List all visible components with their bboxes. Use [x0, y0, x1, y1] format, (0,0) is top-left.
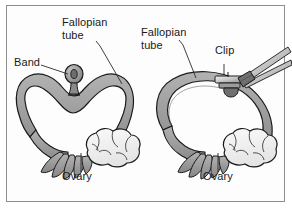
ovary-label-right: Ovary: [203, 170, 233, 183]
ovary-label-left: Ovary: [62, 170, 92, 183]
band-method-panel: Band Fallopian tube Ovary: [0, 0, 146, 214]
clip-method-panel: Fallopian tube Clip Ovary: [146, 0, 292, 214]
clip-label: Clip: [215, 44, 234, 57]
caption-strip: [0, 203, 292, 214]
fallopian-tube-label-left: Fallopian tube: [62, 16, 108, 41]
band-label: Band: [14, 56, 40, 69]
fallopian-tube-label-right: Fallopian tube: [141, 26, 187, 51]
figure-canvas: Band Fallopian tube Ovary Fallopian tube…: [0, 0, 292, 214]
